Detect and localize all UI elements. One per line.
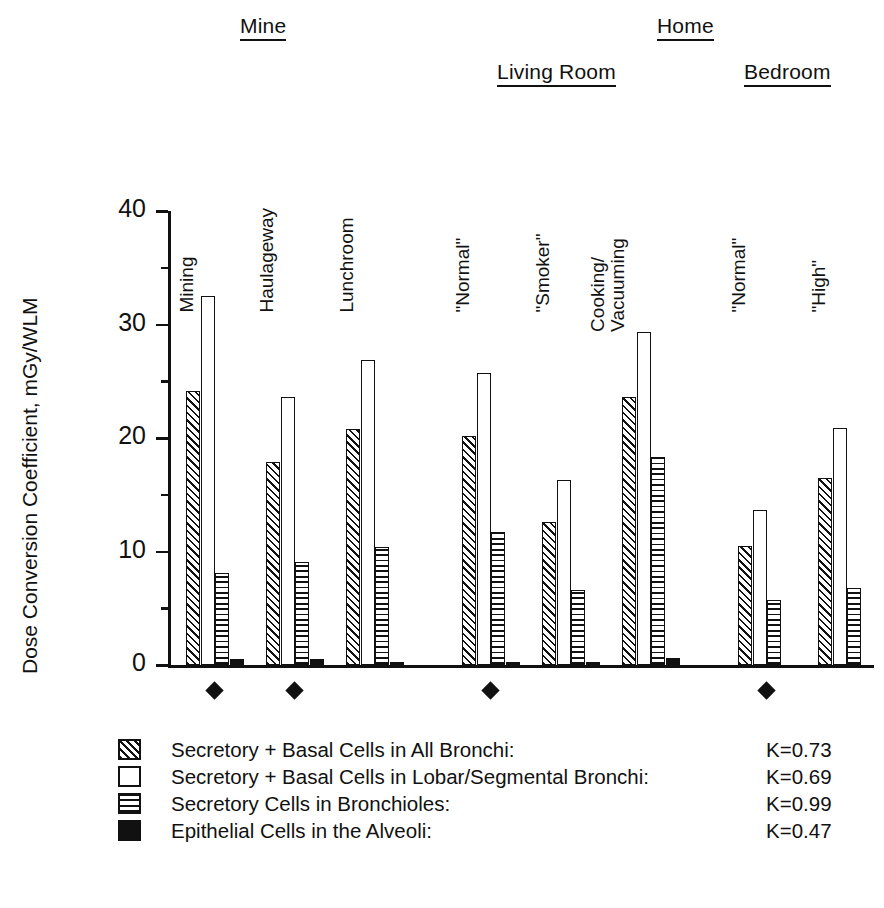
bar-g5-s2 — [557, 480, 571, 665]
bar-g1-s4 — [230, 659, 244, 665]
legend-label-4: Epithelial Cells in the Alveoli: — [171, 819, 432, 843]
group-marker-diamond-7 — [758, 681, 776, 699]
legend-k-value-2: K=0.69 — [766, 765, 832, 789]
bar-chart-figure: Mine Home Living Room Bedroom Dose Conve… — [0, 0, 884, 908]
legend-row-4: Epithelial Cells in the Alveoli:K=0.47 — [118, 817, 878, 844]
category-label-3: Lunchroom — [337, 217, 358, 312]
legend-label-3: Secretory Cells in Bronchioles: — [171, 792, 450, 816]
y-axis-spine — [168, 211, 171, 667]
bar-g3-s3 — [375, 547, 389, 665]
y-axis-tick-label: 0 — [100, 648, 146, 677]
group-marker-diamond-1 — [206, 681, 224, 699]
y-axis-tick-label: 30 — [100, 308, 146, 337]
y-axis-minor-tick — [161, 380, 168, 383]
legend-k-value-1: K=0.73 — [766, 738, 832, 762]
y-axis-minor-tick — [161, 267, 168, 270]
bar-g8-s2 — [833, 428, 847, 665]
legend-row-3: Secretory Cells in Bronchioles:K=0.99 — [118, 790, 878, 817]
legend-swatch-diagonal-hatch-icon — [118, 739, 141, 760]
group-header-mine: Mine — [240, 14, 286, 41]
bar-g7-s3 — [767, 600, 781, 665]
y-axis-label: Dose Conversion Coefficient, mGy/WLM — [18, 297, 42, 674]
bar-g5-s4 — [586, 662, 600, 665]
category-label-4: "Normal" — [453, 238, 474, 313]
bar-g4-s3 — [491, 532, 505, 665]
legend-swatch-horizontal-hatch-icon — [118, 793, 141, 814]
bar-g1-s3 — [215, 573, 229, 665]
category-label-2: Haulageway — [257, 208, 278, 313]
group-header-living-room: Living Room — [497, 60, 616, 87]
y-axis-minor-tick — [161, 607, 168, 610]
y-axis-tick-label: 20 — [100, 421, 146, 450]
legend-swatch-solid-black-icon — [118, 820, 141, 841]
y-axis-major-tick — [156, 210, 168, 213]
legend-label-2: Secretory + Basal Cells in Lobar/Segment… — [171, 765, 649, 789]
bar-g4-s4 — [506, 662, 520, 665]
category-label-5: "Smoker" — [533, 234, 554, 313]
bar-g1-s2 — [201, 296, 215, 665]
bar-g1-s1 — [186, 391, 200, 665]
group-header-home: Home — [657, 14, 714, 41]
category-label-1: Mining — [177, 257, 198, 313]
group-header-bedroom: Bedroom — [744, 60, 831, 87]
legend: Secretory + Basal Cells in All Bronchi:K… — [118, 736, 878, 844]
y-axis-tick-label: 40 — [100, 194, 146, 223]
bar-g4-s1 — [462, 436, 476, 665]
legend-swatch-open-icon — [118, 766, 141, 787]
group-marker-diamond-4 — [482, 681, 500, 699]
bar-g3-s4 — [390, 662, 404, 665]
bar-g6-s2 — [637, 332, 651, 665]
bar-g7-s2 — [753, 510, 767, 665]
y-axis-tick-label: 10 — [100, 535, 146, 564]
bar-g5-s1 — [542, 522, 556, 665]
legend-k-value-4: K=0.47 — [766, 819, 832, 843]
bar-g8-s1 — [818, 478, 832, 665]
x-axis-baseline — [168, 665, 874, 668]
bar-g3-s1 — [346, 429, 360, 665]
y-axis-major-tick — [156, 437, 168, 440]
bar-g3-s2 — [361, 360, 375, 665]
legend-label-1: Secretory + Basal Cells in All Bronchi: — [171, 738, 515, 762]
bar-g6-s3 — [651, 457, 665, 665]
y-axis-minor-tick — [161, 494, 168, 497]
bar-g2-s4 — [310, 659, 324, 665]
bar-g4-s2 — [477, 373, 491, 665]
category-label-8: "High" — [809, 260, 830, 313]
bar-g2-s2 — [281, 397, 295, 665]
legend-row-1: Secretory + Basal Cells in All Bronchi:K… — [118, 736, 878, 763]
y-axis-major-tick — [156, 551, 168, 554]
bar-g6-s4 — [666, 658, 680, 665]
group-marker-diamond-2 — [286, 681, 304, 699]
category-label-7: "Normal" — [729, 238, 750, 313]
bar-g2-s1 — [266, 462, 280, 665]
bar-g2-s3 — [295, 562, 309, 665]
y-axis-major-tick — [156, 324, 168, 327]
bar-g6-s1 — [622, 397, 636, 665]
legend-k-value-3: K=0.99 — [766, 792, 832, 816]
y-axis-major-tick — [156, 664, 168, 667]
legend-row-2: Secretory + Basal Cells in Lobar/Segment… — [118, 763, 878, 790]
bar-g7-s1 — [738, 546, 752, 665]
bar-g5-s3 — [571, 590, 585, 665]
bar-g8-s3 — [847, 588, 861, 665]
category-label-6: Cooking/ Vacuuming — [588, 238, 628, 332]
